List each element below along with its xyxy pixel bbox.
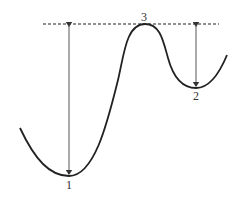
label-point-3: 3 bbox=[141, 10, 147, 24]
label-point-2: 2 bbox=[193, 89, 199, 103]
label-point-1: 1 bbox=[66, 178, 72, 192]
potential-energy-diagram: 1 2 3 bbox=[0, 0, 243, 199]
